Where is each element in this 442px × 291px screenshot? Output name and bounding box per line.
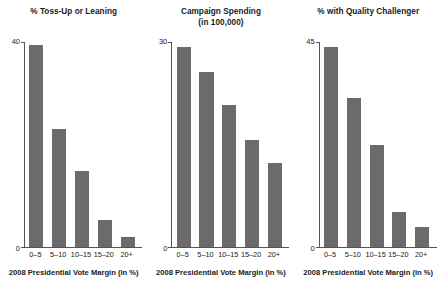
- bar: [347, 98, 361, 247]
- x-tick-label: 20+: [260, 250, 288, 260]
- bar: [29, 45, 43, 247]
- x-axis-line: [171, 247, 289, 248]
- x-tick-label: 20+: [407, 250, 435, 260]
- y-tick-label-max: 30: [159, 37, 167, 46]
- bar: [75, 171, 89, 247]
- bar: [370, 145, 384, 248]
- y-tick-label-min: 0: [163, 244, 167, 253]
- bar-series: [172, 42, 286, 247]
- y-tick-bottom: [168, 247, 172, 248]
- x-axis-title: 2008 Presidential Vote Margin (in %): [295, 268, 442, 278]
- y-tick-bottom: [21, 247, 25, 248]
- chart-panel-toss-up: % Toss-Up or Leaning 40 0 0–55–1010–1515…: [0, 0, 147, 291]
- plot-area: 40 0: [24, 42, 139, 248]
- bar-series: [25, 42, 139, 247]
- x-axis-title: 2008 Presidential Vote Margin (in %): [0, 268, 147, 278]
- bar: [415, 227, 429, 247]
- chart-title: % Toss-Up or Leaning: [0, 7, 147, 18]
- bar: [392, 212, 406, 247]
- x-tick-labels: 0–55–1010–1515–2020+: [171, 250, 289, 262]
- chart-title: Campaign Spending (in 100,000): [147, 7, 294, 28]
- three-panel-bar-chart-figure: % Toss-Up or Leaning 40 0 0–55–1010–1515…: [0, 0, 442, 291]
- bar: [324, 47, 338, 247]
- x-tick-label: 20+: [113, 250, 141, 260]
- y-tick-label-max: 40: [12, 37, 20, 46]
- chart-title: % with Quality Challenger: [295, 7, 442, 18]
- bar: [245, 140, 259, 247]
- y-tick-bottom: [316, 247, 320, 248]
- y-tick-label-min: 0: [16, 244, 20, 253]
- x-axis-line: [24, 247, 142, 248]
- x-tick-labels: 0–55–1010–1515–2020+: [24, 250, 142, 262]
- x-axis-line: [319, 247, 437, 248]
- bar: [98, 220, 112, 247]
- x-axis-title: 2008 Presidential Vote Margin (in %): [147, 268, 294, 278]
- bar: [222, 105, 236, 247]
- chart-panel-quality-challenger: % with Quality Challenger 45 0 0–55–1010…: [295, 0, 442, 291]
- bar-series: [320, 42, 434, 247]
- y-tick-label-min: 0: [310, 244, 314, 253]
- chart-panel-campaign-spending: Campaign Spending (in 100,000) 30 0 0–55…: [147, 0, 294, 291]
- plot-area: 45 0: [319, 42, 434, 248]
- x-tick-labels: 0–55–1010–1515–2020+: [319, 250, 437, 262]
- bar: [199, 72, 213, 247]
- bar: [268, 163, 282, 247]
- bar: [177, 47, 191, 247]
- bar: [52, 129, 66, 247]
- y-tick-label-max: 45: [306, 37, 314, 46]
- bar: [121, 237, 135, 247]
- plot-area: 30 0: [171, 42, 286, 248]
